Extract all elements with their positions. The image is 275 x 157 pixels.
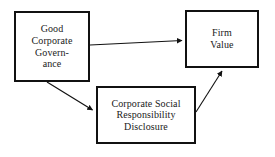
node-good-corporate-governance-label: Good Corporate Govern- ance bbox=[30, 23, 75, 69]
node-corporate-social-responsibility-disclosure: Corporate Social Responsibility Disclosu… bbox=[96, 86, 196, 144]
path-diagram: Good Corporate Govern- ance Firm Value C… bbox=[0, 0, 275, 157]
node-corporate-social-responsibility-disclosure-label: Corporate Social Responsibility Disclosu… bbox=[109, 98, 182, 133]
node-good-corporate-governance: Good Corporate Govern- ance bbox=[14, 11, 90, 82]
edge-gcg-to-firm-value bbox=[90, 41, 182, 46]
node-firm-value: Firm Value bbox=[185, 10, 259, 68]
edge-csr-to-firm-value bbox=[196, 71, 222, 112]
node-firm-value-label: Firm Value bbox=[208, 27, 235, 50]
edge-gcg-to-csr bbox=[47, 82, 93, 110]
